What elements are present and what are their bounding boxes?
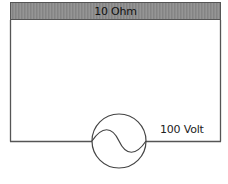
resistor-element: 10 Ohm [10,2,221,20]
resistor-label: 10 Ohm [94,5,137,18]
circuit-wiring [0,0,228,184]
source-label: 100 Volt [160,123,204,136]
ac-source-icon [92,114,146,168]
circuit-diagram: 10 Ohm 100 Volt [0,0,228,184]
